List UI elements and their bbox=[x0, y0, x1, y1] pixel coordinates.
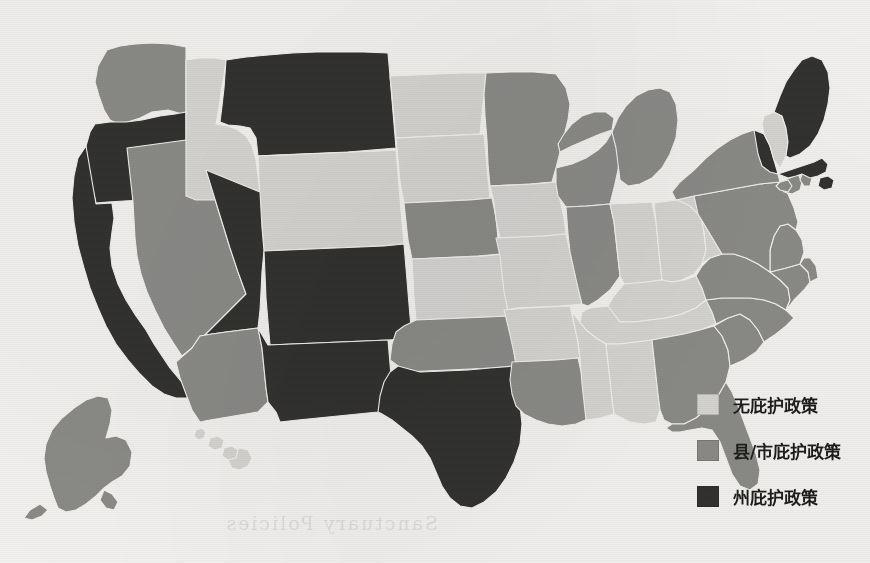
state-ar[interactable] bbox=[504, 306, 580, 362]
state-hi-part[interactable] bbox=[222, 446, 238, 460]
state-hi-part[interactable] bbox=[208, 436, 224, 450]
legend-label-none: 无庇护政策 bbox=[733, 392, 818, 417]
state-wa[interactable] bbox=[95, 43, 186, 124]
legend-swatch-state bbox=[697, 486, 719, 507]
legend-swatch-none bbox=[697, 394, 719, 415]
state-ak[interactable] bbox=[44, 396, 132, 512]
state-sd[interactable] bbox=[396, 134, 490, 203]
state-ak-part[interactable] bbox=[100, 490, 118, 510]
legend-label-county-city: 县/市庇护政策 bbox=[733, 438, 841, 463]
state-tx[interactable] bbox=[378, 366, 522, 508]
state-ma[interactable] bbox=[778, 158, 828, 178]
map-figure: Sanctuary Policies 无庇护政策 县/市庇护政策 州庇护政策 bbox=[0, 0, 870, 563]
state-ks[interactable] bbox=[412, 254, 508, 320]
state-hi-part[interactable] bbox=[194, 428, 206, 440]
legend-label-state: 州庇护政策 bbox=[733, 484, 818, 509]
state-ak-part[interactable] bbox=[24, 504, 48, 520]
map-legend: 无庇护政策 县/市庇护政策 州庇护政策 bbox=[697, 392, 857, 508]
legend-swatch-county-city bbox=[697, 440, 719, 461]
state-al[interactable] bbox=[606, 340, 660, 424]
legend-item-county-city[interactable]: 县/市庇护政策 bbox=[697, 438, 857, 462]
state-nd[interactable] bbox=[390, 73, 486, 138]
legend-item-state[interactable]: 州庇护政策 bbox=[697, 484, 857, 508]
state-wy[interactable] bbox=[258, 150, 404, 251]
state-ia[interactable] bbox=[490, 182, 566, 238]
state-la[interactable] bbox=[510, 358, 590, 426]
state-mi[interactable] bbox=[612, 88, 678, 186]
legend-item-none[interactable]: 无庇护政策 bbox=[697, 392, 857, 416]
state-co[interactable] bbox=[264, 244, 412, 345]
state-ma-part[interactable] bbox=[818, 176, 834, 190]
state-ok[interactable] bbox=[390, 316, 516, 372]
state-ne[interactable] bbox=[404, 198, 500, 259]
